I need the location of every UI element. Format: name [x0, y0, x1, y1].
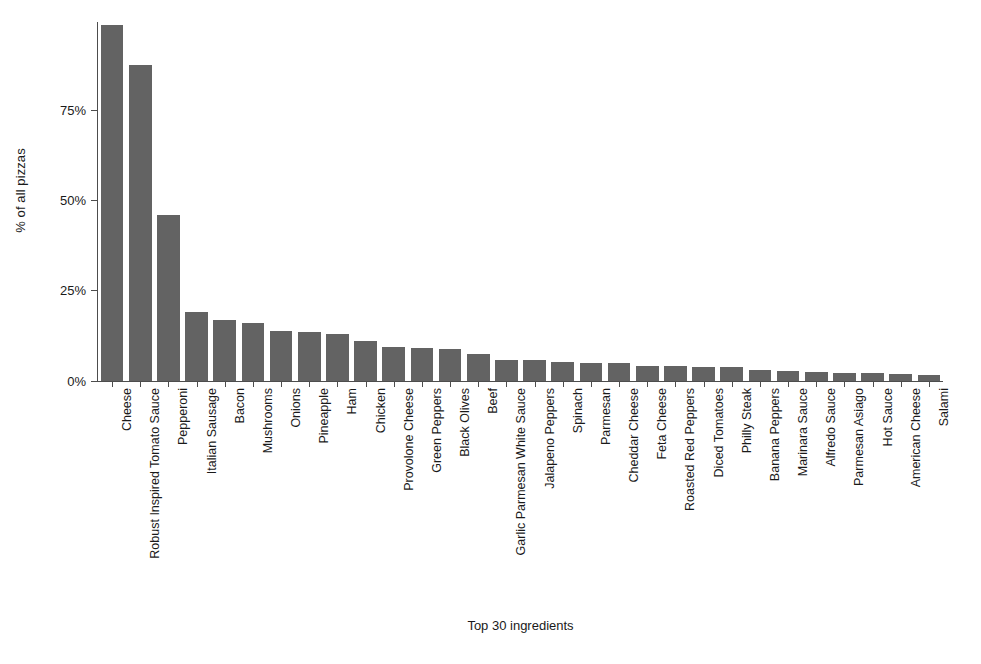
bar [551, 362, 574, 381]
x-axis-tick-mark [788, 382, 789, 387]
x-axis-tick-label: Spinach [568, 388, 584, 608]
bar [692, 367, 715, 381]
x-axis-tick-mark [112, 382, 113, 387]
x-axis-tick-mark [675, 382, 676, 387]
x-axis-tick-label-text: Spinach [571, 388, 585, 433]
bar [382, 347, 405, 381]
x-axis-tick-label: Alfredo Sauce [821, 388, 837, 608]
x-axis-tick-mark [281, 382, 282, 387]
x-axis-tick-label: Provolone Cheese [399, 388, 415, 608]
y-axis-tick-label: 75% [60, 104, 91, 117]
x-axis-tick-label: Hot Sauce [878, 388, 894, 608]
bar [749, 370, 772, 381]
x-axis-tick-label-text: Diced Tomatoes [712, 388, 726, 477]
x-axis-tick-mark [591, 382, 592, 387]
x-axis-tick-mark [816, 382, 817, 387]
bar [185, 312, 208, 381]
x-axis-tick-mark [704, 382, 705, 387]
bar [608, 363, 631, 381]
x-axis-tick-label-text: Philly Steak [740, 388, 754, 453]
y-axis-tick-label: 25% [60, 284, 91, 297]
x-axis-tick-label: Banana Peppers [765, 388, 781, 608]
bar [523, 360, 546, 381]
bar [129, 65, 152, 381]
x-axis-tick-label: Chicken [371, 388, 387, 608]
x-axis-tick-label: Bacon [230, 388, 246, 608]
bar [777, 371, 800, 381]
x-axis-tick-mark [873, 382, 874, 387]
x-axis-tick-label: Salami [934, 388, 950, 608]
x-axis-tick-label: Ham [342, 388, 358, 608]
bar [411, 348, 434, 381]
x-axis-tick-mark [450, 382, 451, 387]
x-axis-tick-label-text: Parmesan Asiago [852, 388, 866, 486]
x-axis-tick-labels: CheeseRobust Inspired Tomato SaucePepper… [98, 388, 943, 610]
bar [918, 375, 941, 381]
x-axis-tick-label-text: Green Peppers [430, 388, 444, 473]
bar [580, 363, 603, 381]
x-axis-tick-label: Pineapple [314, 388, 330, 608]
x-axis-tick-label-text: Pineapple [317, 388, 331, 444]
x-axis-tick-label: Black Olives [455, 388, 471, 608]
x-axis-tick-mark [168, 382, 169, 387]
x-axis-title: Top 30 ingredients [98, 618, 943, 633]
x-axis-tick-label-text: Mushrooms [261, 388, 275, 453]
x-axis-tick-mark [506, 382, 507, 387]
x-axis-tick-label: Beef [483, 388, 499, 608]
y-axis-title: % of all pizzas [0, 0, 40, 381]
x-axis-tick-label: Onions [286, 388, 302, 608]
x-axis-tick-label-text: Roasted Red Peppers [683, 388, 697, 511]
bar [664, 366, 687, 381]
x-axis-tick-label: Jalapeno Peppers [540, 388, 556, 608]
x-axis-tick-label-text: Feta Cheese [655, 388, 669, 460]
x-axis-tick-label: Mushrooms [258, 388, 274, 608]
y-axis-tick-label: 50% [60, 194, 91, 207]
bar [495, 360, 518, 381]
x-axis-tick-mark [309, 382, 310, 387]
bar [861, 373, 884, 381]
x-axis-tick-label-text: Italian Sausage [205, 388, 219, 474]
x-axis-tick-label-text: American Cheese [909, 388, 923, 487]
bar [720, 367, 743, 381]
x-axis-tick-label: Roasted Red Peppers [680, 388, 696, 608]
x-axis-tick-label-text: Robust Inspired Tomato Sauce [148, 388, 162, 559]
bar [439, 349, 462, 381]
x-axis-tick-mark [619, 382, 620, 387]
x-axis-tick-label: Cheddar Cheese [624, 388, 640, 608]
x-axis-tick-label-text: Chicken [374, 388, 388, 433]
x-axis-tick-label-text: Garlic Parmesan White Sauce [514, 388, 528, 555]
bar [157, 215, 180, 381]
x-axis-tick-label-text: Hot Sauce [881, 388, 895, 446]
x-axis-tick-label: Garlic Parmesan White Sauce [511, 388, 527, 608]
x-axis-tick-label: Cheese [117, 388, 133, 608]
x-axis-tick-mark [844, 382, 845, 387]
x-axis-tick-label: Feta Cheese [652, 388, 668, 608]
x-axis-tick-mark [760, 382, 761, 387]
x-axis-tick-label: Green Peppers [427, 388, 443, 608]
x-axis-tick-mark [647, 382, 648, 387]
x-axis-tick-mark [563, 382, 564, 387]
x-axis-tick-mark [422, 382, 423, 387]
y-axis: 0%25%50%75% [40, 0, 97, 400]
x-axis-tick-mark [732, 382, 733, 387]
x-axis-tick-label-text: Onions [289, 388, 303, 428]
x-axis-tick-label: American Cheese [906, 388, 922, 608]
bar [467, 354, 490, 381]
x-axis-tick-label-text: Marinara Sauce [796, 388, 810, 476]
x-axis-tick-label: Parmesan Asiago [849, 388, 865, 608]
x-axis-tick-mark [140, 382, 141, 387]
bar [636, 366, 659, 381]
x-axis-tick-label-text: Parmesan [599, 388, 613, 445]
x-axis-tick-label-text: Black Olives [458, 388, 472, 457]
x-axis-tick-mark [225, 382, 226, 387]
bar [889, 374, 912, 381]
x-axis-tick-label: Italian Sausage [202, 388, 218, 608]
x-axis-tick-mark [197, 382, 198, 387]
x-axis-tick-label: Diced Tomatoes [709, 388, 725, 608]
x-axis-tick-label-text: Alfredo Sauce [824, 388, 838, 467]
x-axis-tick-mark [478, 382, 479, 387]
x-axis-tick-label-text: Jalapeno Peppers [543, 388, 557, 489]
x-axis-tick-label: Marinara Sauce [793, 388, 809, 608]
plot-area [98, 0, 943, 381]
x-axis-tick-label-text: Cheese [120, 388, 134, 431]
